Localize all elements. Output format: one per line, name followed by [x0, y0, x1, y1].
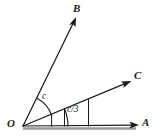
vertex-label-o: O	[7, 118, 15, 129]
ray-label-b: B	[73, 3, 80, 14]
angle-diagram-figure: O A C B c c/3	[0, 0, 153, 137]
ray-label-c: C	[134, 70, 141, 81]
angle-label-c-over-3: c/3	[67, 105, 79, 115]
diagram-canvas	[0, 0, 153, 137]
ray-oa-line	[23, 125, 133, 126]
ray-label-a: A	[142, 117, 149, 128]
angle-label-c: c	[42, 92, 46, 102]
